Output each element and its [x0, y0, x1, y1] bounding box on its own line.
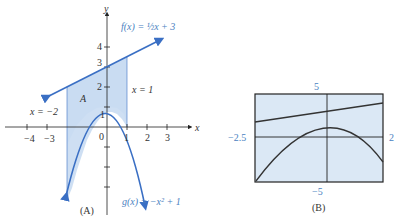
- ymax-label: 5: [314, 81, 319, 92]
- y-tick-1: 1: [100, 109, 105, 120]
- y-tick-4: 4: [97, 41, 102, 52]
- caption-a: (A): [80, 205, 94, 217]
- g-label: g(x) = −x² + 1: [122, 196, 181, 208]
- x-tick-0: 0: [99, 131, 104, 142]
- y-axis-label: y: [103, 3, 109, 14]
- x-tick-3: 3: [165, 132, 170, 143]
- xmax-label: 2: [389, 132, 394, 143]
- y-tick-3: 3: [97, 57, 102, 68]
- right-bound-label: x = 1: [131, 84, 153, 95]
- panel-b-calculator: 5 −5 −2.5 2 (B): [228, 81, 394, 214]
- x-tick-neg4: −4: [24, 133, 35, 144]
- xmin-label: −2.5: [228, 132, 246, 143]
- y-tick-2: 2: [97, 81, 102, 92]
- region-label: A: [79, 93, 87, 104]
- left-bound-label: x = −2: [29, 106, 58, 117]
- ymin-label: −5: [312, 186, 323, 197]
- calc-screen: [255, 94, 383, 182]
- x-tick-neg3: −3: [44, 133, 55, 144]
- x-axis-label: x: [194, 122, 200, 133]
- f-label: f(x) = ½x + 3: [121, 21, 175, 33]
- x-tick-1: 1: [124, 132, 129, 143]
- figure-canvas: −4 −3 0 1 2 3 1 2 3 4 x y f(x) = ½x + 3 …: [0, 0, 400, 218]
- caption-b: (B): [312, 202, 325, 214]
- panel-a-graph: −4 −3 0 1 2 3 1 2 3 4 x y f(x) = ½x + 3 …: [5, 3, 200, 217]
- shaded-region-fill: [67, 57, 127, 200]
- x-tick-2: 2: [145, 132, 150, 143]
